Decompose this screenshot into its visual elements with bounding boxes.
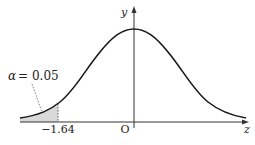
alpha-label: α= 0.05 [8, 69, 59, 83]
y-axis-arrow-icon [132, 6, 137, 13]
y-axis-label: y [120, 6, 128, 19]
origin-label: O [120, 123, 129, 136]
x-axis-label: z [243, 123, 250, 136]
alpha-leader-line [32, 84, 42, 112]
cutoff-label: −1.64 [41, 123, 75, 136]
normal-curve-diagram: α= 0.05 −1.64 O z y [0, 0, 255, 145]
